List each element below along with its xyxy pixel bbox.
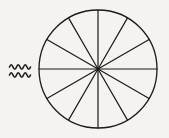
sector-circle-group [39, 10, 157, 128]
diagram-canvas [0, 0, 169, 138]
circle-center-point [97, 68, 100, 71]
figure-root: Circle divided into twelve equal sectors… [0, 0, 169, 138]
